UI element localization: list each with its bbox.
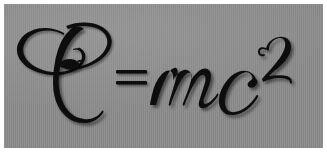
equation-artwork: E = mc2 [4,4,323,148]
term-equals-sign [116,70,147,84]
term-mass-m [150,68,218,108]
term-energy-e [17,23,112,124]
e-main-stroke-icon [53,27,103,124]
term-exponent-two [258,37,292,84]
equals-bar-bottom [116,81,147,84]
equation-poster: E = mc2 [0,0,327,159]
equation-panel: E = mc2 [4,4,323,148]
term-speed-of-light-c [219,71,258,115]
equals-bar-top [116,70,147,73]
